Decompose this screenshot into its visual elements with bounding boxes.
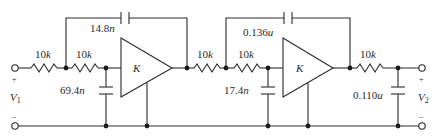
circuit-diagram: + – V1 + – V2 10k 10k 14.8n 69.4n K 10k … [0, 0, 438, 140]
amp2-gain-label: K [295, 62, 304, 74]
input-plus-sign: + [12, 75, 17, 84]
amplifier-stage2 [283, 38, 333, 126]
c-feedback-stage2-label: 0.136u [243, 26, 274, 38]
output-plus-sign: + [419, 75, 424, 84]
c-shunt-stage2-label: 17.4n [224, 84, 249, 96]
input-minus-sign: – [11, 112, 17, 121]
resistor-r1-stage1 [31, 64, 57, 72]
output-terminal-minus [419, 123, 425, 129]
r1-stage1-label: 10k [35, 48, 52, 60]
junction-dots [64, 66, 401, 129]
resistor-r-output [357, 64, 383, 72]
c-feedback-stage1-label: 14.8n [90, 22, 115, 34]
resistor-r2-stage1 [72, 64, 98, 72]
resistor-r2-stage2 [234, 64, 260, 72]
input-terminal-plus [12, 65, 18, 71]
r1-stage2-label: 10k [197, 48, 214, 60]
resistor-r1-stage2 [194, 64, 220, 72]
c-shunt-stage1-label: 69.4n [60, 84, 85, 96]
r-output-label: 10k [360, 48, 377, 60]
r2-stage1-label: 10k [76, 48, 93, 60]
amplifier-stage1 [121, 38, 172, 126]
output-minus-sign: – [418, 112, 424, 121]
r2-stage2-label: 10k [238, 48, 255, 60]
input-voltage-label: V1 [10, 91, 21, 105]
signal-wires [18, 64, 419, 72]
amp1-gain-label: K [132, 62, 141, 74]
output-voltage-label: V2 [418, 91, 429, 105]
c-shunt-output-label: 0.110u [353, 89, 383, 101]
output-terminal-plus [419, 65, 425, 71]
input-terminal-minus [12, 123, 18, 129]
